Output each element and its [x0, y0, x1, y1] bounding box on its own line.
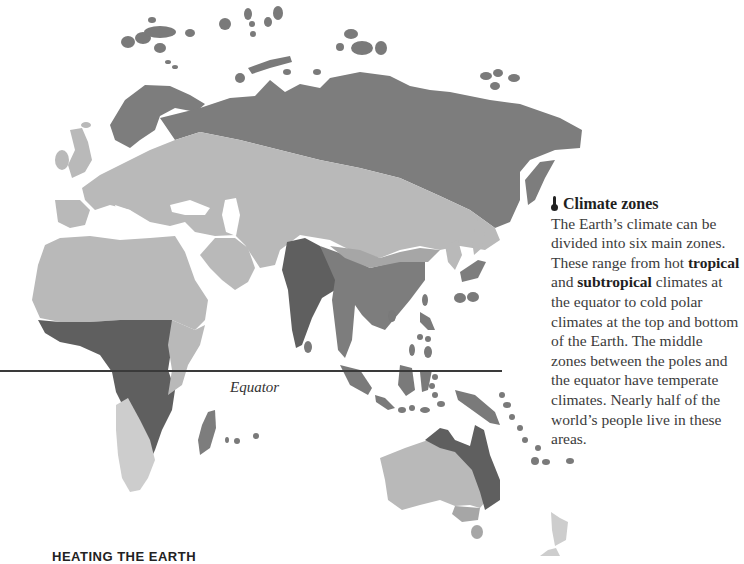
tropical-africa	[38, 320, 175, 472]
equator-line	[0, 370, 502, 372]
climate-zones-panel: Climate zones The Earth’s climate can be…	[551, 194, 741, 449]
info-text-3: climates at the equator to cold polar cl…	[551, 273, 738, 447]
info-bold-tropical: tropical	[688, 254, 739, 271]
thermometer-icon	[551, 196, 558, 211]
info-title: Climate zones	[563, 194, 659, 214]
info-bold-subtropical: subtropical	[577, 273, 652, 290]
info-body: The Earth’s climate can be divided into …	[551, 214, 741, 449]
north-africa	[32, 236, 208, 330]
equator-label: Equator	[230, 379, 279, 396]
tasmania	[471, 525, 483, 539]
new-zealand	[551, 512, 568, 546]
iberia	[55, 200, 90, 228]
arctic-islands	[121, 6, 520, 90]
madagascar	[198, 410, 216, 455]
info-title-row: Climate zones	[551, 194, 741, 214]
info-text-2: and	[551, 273, 577, 290]
japan-south	[460, 260, 486, 282]
british-isles	[55, 122, 92, 178]
australia-south	[452, 506, 480, 522]
east-africa	[168, 320, 205, 395]
section-heading: HEATING THE EARTH	[52, 549, 196, 564]
